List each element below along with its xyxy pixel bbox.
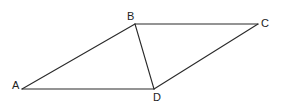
vertex-label-c: C [261, 17, 269, 29]
vertex-label-a: A [12, 79, 20, 91]
diagonal-bd [135, 24, 154, 89]
vertex-label-d: D [153, 91, 161, 103]
vertex-label-b: B [127, 10, 134, 22]
edge-cd [154, 24, 258, 89]
parallelogram-diagram: A B C D [0, 0, 285, 106]
edge-ab [22, 24, 135, 89]
